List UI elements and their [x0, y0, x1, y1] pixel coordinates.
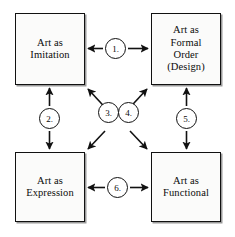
edge-badge-3-label: 3. — [105, 109, 112, 118]
node-label-formal-order: Art as Formal Order (Design) — [164, 24, 208, 74]
connector-4-lower-segment — [130, 131, 147, 149]
node-art-as-functional: Art as Functional — [151, 152, 221, 222]
edge-badge-6: 6. — [107, 177, 128, 198]
edge-badge-2-label: 2. — [46, 115, 53, 124]
edge-badge-3: 3. — [98, 102, 119, 123]
node-art-as-formal-order: Art as Formal Order (Design) — [151, 13, 221, 85]
edge-badge-1: 1. — [105, 38, 126, 59]
edge-badge-2: 2. — [39, 108, 60, 129]
edge-badge-1-label: 1. — [112, 45, 119, 54]
edge-badge-4-label: 4. — [125, 109, 132, 118]
node-label-expression: Art as Expression — [23, 175, 77, 200]
art-relationships-diagram: Art as Imitation Art as Formal Order (De… — [0, 0, 235, 237]
node-label-imitation: Art as Imitation — [27, 37, 72, 62]
node-art-as-expression: Art as Expression — [15, 152, 85, 222]
node-art-as-imitation: Art as Imitation — [15, 13, 85, 85]
connector-3-lower-segment — [88, 131, 105, 149]
edge-badge-4: 4. — [118, 102, 139, 123]
edge-badge-5-label: 5. — [183, 115, 190, 124]
edge-badge-6-label: 6. — [114, 184, 121, 193]
node-label-functional: Art as Functional — [160, 175, 212, 200]
edge-badge-5: 5. — [176, 108, 197, 129]
